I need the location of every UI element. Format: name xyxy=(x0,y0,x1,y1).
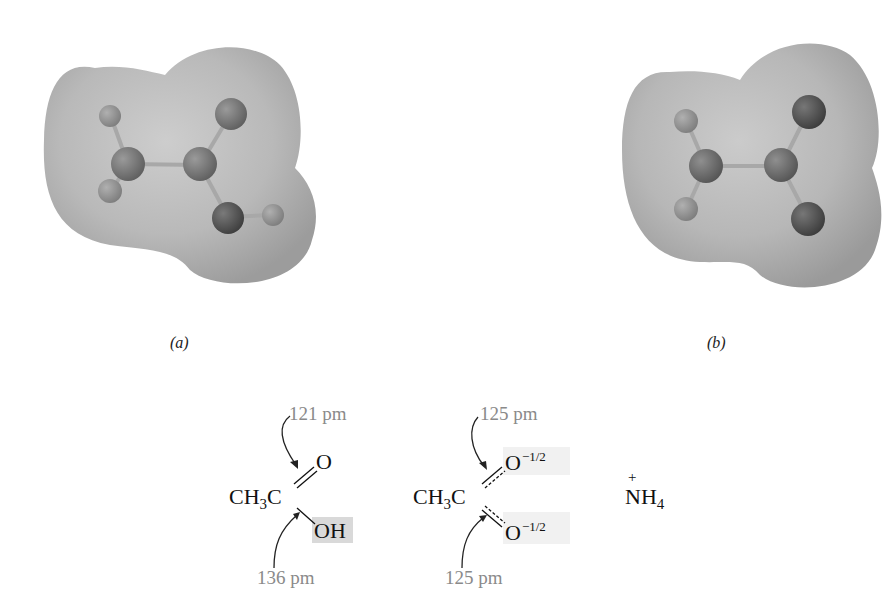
partial-double-bond xyxy=(482,467,505,488)
curved-arrow xyxy=(274,515,297,568)
double-bond xyxy=(294,467,317,488)
arrow-head xyxy=(293,512,300,520)
arrow-head xyxy=(479,461,487,470)
single-bond xyxy=(297,508,315,524)
bond-and-arrow-overlay xyxy=(0,0,889,602)
arrow-head xyxy=(290,460,298,469)
curved-arrow xyxy=(462,518,483,568)
curved-arrow xyxy=(472,417,484,466)
curved-arrow xyxy=(282,416,296,465)
